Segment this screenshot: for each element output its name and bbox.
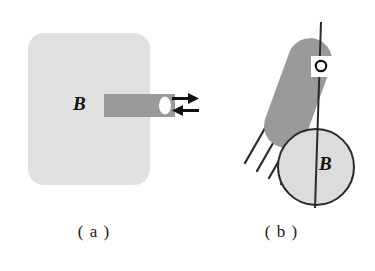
- panel-b-b-label: B: [319, 153, 332, 175]
- panel-b: B ( b ): [188, 0, 375, 271]
- pivot-hole-circle: [316, 61, 326, 71]
- panel-b-caption: ( b ): [188, 222, 375, 242]
- white-ellipse-hole: [159, 97, 171, 115]
- panel-a: B ( a ): [0, 0, 188, 271]
- panel-a-caption: ( a ): [0, 222, 188, 242]
- panel-a-b-label: B: [73, 93, 86, 115]
- figure-root: B ( a ): [0, 0, 375, 271]
